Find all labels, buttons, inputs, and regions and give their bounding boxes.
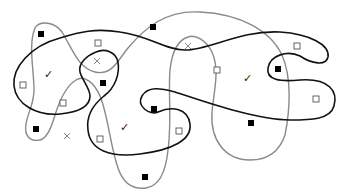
filled-square-marker xyxy=(150,24,156,30)
open-square-marker xyxy=(214,67,220,73)
cross-icon xyxy=(64,133,70,139)
filled-square-marker xyxy=(38,31,44,37)
filled-square-marker xyxy=(275,66,281,72)
check-icon: ✓ xyxy=(243,72,252,85)
open-square-marker xyxy=(20,82,26,88)
open-square-marker xyxy=(176,128,182,134)
open-square-marker xyxy=(313,96,319,102)
cross-icon xyxy=(94,58,100,64)
cross-icon xyxy=(185,43,191,49)
open-square-marker xyxy=(97,136,103,142)
filled-square-marker xyxy=(142,174,148,180)
filled-square-marker xyxy=(151,106,157,112)
checks: ✓ ✓ ✓ xyxy=(44,68,252,134)
check-icon: ✓ xyxy=(120,121,129,134)
diagram-canvas: ✓ ✓ ✓ xyxy=(0,0,346,196)
open-square-marker xyxy=(294,43,300,49)
filled-square-marker xyxy=(248,120,254,126)
filled-square-marker xyxy=(100,80,106,86)
open-square-marker xyxy=(95,40,101,46)
filled-square-marker xyxy=(33,126,39,132)
black-curve xyxy=(14,30,335,155)
open-square-marker xyxy=(60,100,66,106)
check-icon: ✓ xyxy=(44,68,53,81)
